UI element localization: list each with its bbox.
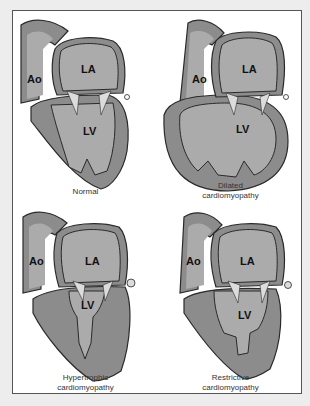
panel-normal: Ao LA LV Normal (13, 11, 158, 203)
panel-hypertrophic: Ao LA LV Hypertrophic cardiomyopathy (13, 203, 158, 395)
atrium-label: LA (81, 63, 96, 75)
normal-heart-illustration: Ao LA LV (13, 11, 158, 203)
caption-line: cardiomyopathy (13, 383, 158, 393)
restrictive-heart-illustration: Ao LA LV (158, 203, 303, 395)
ventricle-label: LV (83, 125, 97, 137)
caption-line: Restrictive (158, 373, 303, 383)
atrium-label: LA (242, 63, 257, 75)
ventricle-label: LV (81, 299, 95, 311)
caption-dilated: Dilated cardiomyopathy (158, 181, 303, 201)
panel-dilated: Ao LA LV Dilated cardiomyopathy (158, 11, 303, 203)
hypertrophic-heart-illustration: Ao LA LV (13, 203, 158, 395)
atrium-label: LA (85, 255, 100, 267)
caption-normal: Normal (13, 187, 158, 197)
panel-restrictive: Ao LA LV Restrictive cardiomyopathy (158, 203, 303, 395)
caption-line: Dilated (158, 181, 303, 191)
caption-hypertrophic: Hypertrophic cardiomyopathy (13, 373, 158, 393)
dilated-heart-illustration: Ao LA LV (158, 11, 303, 203)
figure-frame: Ao LA LV Normal Ao LA LV Dilated cardiom… (12, 10, 302, 394)
aorta-label: Ao (29, 255, 44, 267)
caption-line: Normal (13, 187, 158, 197)
caption-line: cardiomyopathy (158, 383, 303, 393)
aorta-label: Ao (27, 73, 42, 85)
ventricle-label: LV (236, 123, 250, 135)
caption-restrictive: Restrictive cardiomyopathy (158, 373, 303, 393)
aorta-label: Ao (192, 73, 207, 85)
caption-line: cardiomyopathy (158, 191, 303, 201)
ventricle-label: LV (238, 309, 252, 321)
caption-line: Hypertrophic (13, 373, 158, 383)
atrium-label: LA (240, 255, 255, 267)
aorta-label: Ao (186, 255, 201, 267)
